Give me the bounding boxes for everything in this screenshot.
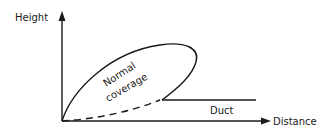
coverage-diagram: Height Distance Duct Normal coverage [0, 0, 334, 135]
x-axis-arrow-icon [261, 118, 271, 125]
y-axis-arrow-icon [59, 11, 66, 21]
y-axis-label: Height [15, 12, 48, 23]
x-axis-label: Distance [273, 116, 317, 127]
duct-label: Duct [210, 105, 234, 116]
lower-boundary-dashed [62, 100, 160, 121]
